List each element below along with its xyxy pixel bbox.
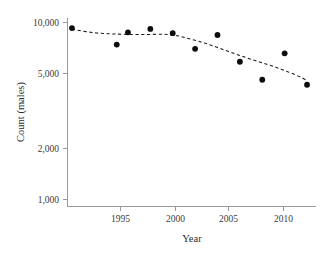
x-tick-label-1995: 1995 [111,214,130,224]
data-point [259,77,265,83]
data-point [114,42,120,48]
x-axis-title: Year [182,233,202,244]
y-tick-label-10000: 10,000 [33,18,59,28]
chart-figure: 10,000 5,000 2,000 1,000 1995 2000 2005 … [0,0,326,255]
y-tick-label-5000: 5,000 [38,69,60,79]
axis-lines [68,18,317,207]
data-point [192,46,198,52]
scatter-plot: 10,000 5,000 2,000 1,000 1995 2000 2005 … [0,0,326,255]
data-point [69,25,75,31]
y-tick-label-1000: 1,000 [38,195,60,205]
x-tick-label-2000: 2000 [166,214,185,224]
y-tick-label-2000: 2,000 [38,144,60,154]
data-point [147,26,153,32]
x-tick-label-2005: 2005 [219,214,238,224]
x-tick-label-2010: 2010 [274,214,293,224]
data-point [237,59,243,65]
data-point [170,30,176,36]
x-tick-marks [121,207,284,212]
y-axis-title: Count (males) [15,82,27,142]
data-points [69,25,310,87]
data-point [215,32,221,38]
data-point [282,50,288,56]
trend-line [72,29,307,80]
y-tick-marks [63,23,68,200]
data-point [304,82,310,88]
data-point [125,29,131,35]
